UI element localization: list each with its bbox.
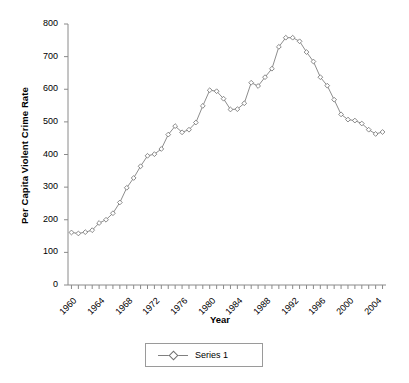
data-point-marker bbox=[352, 118, 357, 123]
data-point-marker bbox=[249, 80, 254, 85]
data-point-marker bbox=[138, 164, 143, 169]
y-tick-label: 500 bbox=[28, 117, 58, 126]
series-1-line bbox=[69, 35, 385, 236]
data-point-marker bbox=[297, 39, 302, 44]
data-point-marker bbox=[69, 230, 74, 235]
y-tick-label: 0 bbox=[28, 280, 58, 289]
legend-label: Series 1 bbox=[195, 350, 228, 360]
y-tick-label: 200 bbox=[28, 215, 58, 224]
data-point-marker bbox=[290, 35, 295, 40]
y-tick-label: 800 bbox=[28, 19, 58, 28]
data-point-marker bbox=[145, 153, 150, 158]
data-point-marker bbox=[228, 107, 233, 112]
data-point-marker bbox=[76, 231, 81, 236]
y-tick-label: 100 bbox=[28, 247, 58, 256]
legend-marker-icon bbox=[158, 350, 188, 360]
data-point-marker bbox=[200, 103, 205, 108]
data-point-marker bbox=[207, 88, 212, 93]
y-tick-label: 300 bbox=[28, 182, 58, 191]
data-point-marker bbox=[373, 132, 378, 137]
y-tick-label: 700 bbox=[28, 52, 58, 61]
axes bbox=[64, 24, 386, 289]
chart-container: Per Capita Violent Crime Rate Year 01002… bbox=[0, 0, 409, 383]
data-point-marker bbox=[83, 230, 88, 235]
legend: Series 1 bbox=[145, 343, 263, 367]
data-point-marker bbox=[380, 130, 385, 135]
data-point-marker bbox=[117, 200, 122, 205]
y-tick-label: 400 bbox=[28, 150, 58, 159]
data-point-marker bbox=[332, 97, 337, 102]
y-tick-label: 600 bbox=[28, 84, 58, 93]
